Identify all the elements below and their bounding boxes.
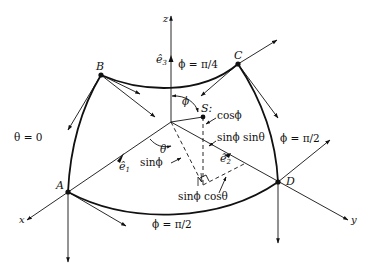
e3-arrowhead — [169, 55, 174, 62]
cos-phi-leader — [206, 118, 216, 124]
sin-phi-label: sinϕ — [140, 156, 163, 168]
origin-to-foot-dashed — [171, 122, 203, 185]
point-s-label: S: — [201, 102, 212, 115]
point-a-label: A — [55, 179, 64, 192]
e3-label: ê3 — [156, 53, 168, 67]
point-a — [65, 189, 70, 194]
x-axis-label: x — [19, 214, 25, 225]
sin-phi-sin-theta-label: sinϕ sinθ — [217, 131, 265, 143]
y-axis-label: y — [350, 214, 357, 225]
phi-pi2-bottom-label: ϕ = π/2 — [152, 218, 192, 230]
break-marker — [198, 173, 202, 186]
point-c — [235, 61, 240, 66]
theta-zero-label: θ = 0 — [14, 131, 42, 143]
diagram-canvas: z x y ê3 ê1 ê2 B C A D S: θ = 0 ϕ = π/4 … — [0, 0, 371, 278]
point-b-label: B — [95, 60, 104, 73]
z-axis-label: z — [162, 13, 169, 24]
curve-phi-pi2-bottom — [68, 182, 278, 215]
point-c-label: C — [234, 49, 243, 62]
point-s — [201, 115, 206, 120]
sin-phi-cos-theta-label: sinϕ cosθ — [178, 190, 228, 202]
theta-angle-label: θ — [160, 143, 167, 155]
sin-phi-leader — [171, 158, 181, 163]
tangent-vectors — [68, 40, 330, 262]
radius-to-s — [171, 117, 203, 122]
e1-label: ê1 — [119, 160, 130, 174]
phi-pi2-right-label: ϕ = π/2 — [280, 132, 320, 144]
cos-phi-label: cosϕ — [217, 109, 242, 121]
point-b — [98, 72, 103, 77]
point-d-label: D — [285, 175, 295, 188]
curve-theta-zero — [68, 75, 101, 192]
phi-pi4-label: ϕ = π/4 — [178, 58, 218, 70]
spherical-coordinates-diagram: z x y ê3 ê1 ê2 B C A D S: θ = 0 ϕ = π/4 … — [0, 0, 371, 278]
point-d — [275, 179, 280, 184]
phi-angle-label: ϕ — [182, 95, 189, 107]
